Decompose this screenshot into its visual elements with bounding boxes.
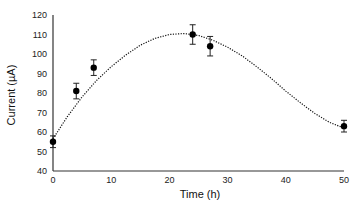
x-tick-label: 40 — [281, 175, 291, 185]
y-axis-tick-labels: 405060708090100110120 — [32, 10, 47, 176]
x-axis-tick-labels: 01020304050 — [50, 175, 349, 185]
data-point — [341, 120, 347, 132]
y-tick-label: 100 — [32, 49, 47, 59]
y-tick-label: 80 — [37, 88, 47, 98]
point-marker — [341, 123, 347, 129]
point-marker — [189, 31, 195, 37]
data-point — [207, 36, 213, 56]
y-tick-label: 120 — [32, 10, 47, 20]
x-tick-label: 30 — [223, 175, 233, 185]
x-tick-label: 20 — [164, 175, 174, 185]
data-point — [91, 60, 97, 76]
y-tick-label: 90 — [37, 69, 47, 79]
x-tick-label: 0 — [50, 175, 55, 185]
data-point — [189, 25, 195, 45]
data-points — [50, 25, 347, 148]
y-tick-label: 110 — [33, 30, 47, 40]
chart: 405060708090100110120 01020304050 Time (… — [0, 0, 362, 211]
point-marker — [73, 88, 79, 94]
data-point — [50, 136, 56, 148]
x-tick-label: 10 — [106, 175, 116, 185]
x-axis-title: Time (h) — [180, 188, 221, 200]
y-tick-label: 60 — [37, 127, 47, 137]
point-marker — [50, 139, 56, 145]
y-tick-label: 40 — [37, 166, 47, 176]
x-tick-label: 50 — [339, 175, 349, 185]
point-marker — [207, 43, 213, 49]
y-axis-title: Current (µA) — [5, 65, 17, 126]
y-tick-label: 70 — [37, 108, 47, 118]
y-tick-label: 50 — [37, 147, 47, 157]
data-point — [73, 83, 79, 99]
point-marker — [91, 64, 97, 70]
trendline — [53, 34, 344, 139]
